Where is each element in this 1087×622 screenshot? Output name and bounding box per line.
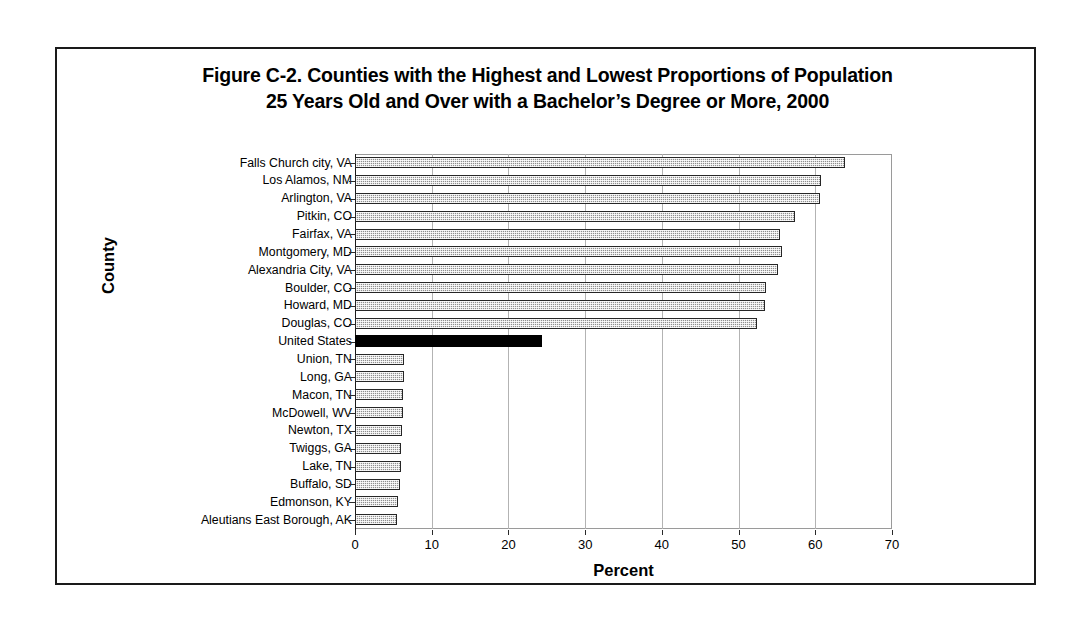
bar-highlight xyxy=(355,335,542,347)
y-axis-tick-label: Lake, TN xyxy=(302,459,352,473)
bar-row xyxy=(355,279,892,297)
y-axis-tick-label: Arlington, VA xyxy=(281,191,352,205)
x-axis-tick-label: 10 xyxy=(412,537,452,552)
y-axis-tick-label-row: Boulder, CO xyxy=(52,279,352,297)
y-axis-tick-labels: Falls Church city, VALos Alamos, NMArlin… xyxy=(52,154,352,529)
bar xyxy=(355,175,821,186)
bar xyxy=(355,193,820,204)
bar-row xyxy=(355,154,892,172)
bar-row xyxy=(355,350,892,368)
bar-row xyxy=(355,333,892,351)
bar-row xyxy=(355,475,892,493)
y-axis-tick-label: Buffalo, SD xyxy=(290,477,352,491)
bar-row xyxy=(355,243,892,261)
bar xyxy=(355,229,780,240)
bar-row xyxy=(355,493,892,511)
y-axis-tick-label-row: Douglas, CO xyxy=(52,315,352,333)
y-axis-tick-label-row: Montgomery, MD xyxy=(52,243,352,261)
y-axis-tick-label-row: Lake, TN xyxy=(52,458,352,476)
x-axis-tick-label: 40 xyxy=(642,537,682,552)
y-axis-tick-label-row: United States xyxy=(52,333,352,351)
x-axis-tick-label: 70 xyxy=(872,537,912,552)
bar xyxy=(355,211,795,222)
y-axis-tick-label: Douglas, CO xyxy=(282,316,352,330)
y-axis-tick-label-row: Fairfax, VA xyxy=(52,225,352,243)
y-axis-tick-label: Edmonson, KY xyxy=(270,495,352,509)
bar xyxy=(355,443,401,454)
bar-row xyxy=(355,422,892,440)
y-axis-tick-label-row: Los Alamos, NM xyxy=(52,172,352,190)
y-axis-tick-label: Boulder, CO xyxy=(285,281,352,295)
bar xyxy=(355,461,401,472)
x-axis-tick-mark xyxy=(739,530,740,535)
y-axis-tick-label: Montgomery, MD xyxy=(259,245,352,259)
y-axis-tick-label-row: Aleutians East Borough, AK xyxy=(52,511,352,529)
y-axis-tick-label-row: Union, TN xyxy=(52,350,352,368)
y-axis-tick-label: Aleutians East Borough, AK xyxy=(201,513,352,527)
bar-row xyxy=(355,172,892,190)
figure-frame: Figure C-2. Counties with the Highest an… xyxy=(55,47,1036,585)
y-axis-tick-label-row: Newton, TX xyxy=(52,422,352,440)
y-axis-tick-label-row: Long, GA xyxy=(52,368,352,386)
x-axis-title: Percent xyxy=(355,561,892,580)
x-axis-tick-mark xyxy=(892,530,893,535)
bar-chart: 010203040506070 Falls Church city, VALos… xyxy=(57,49,1038,587)
bar xyxy=(355,496,398,507)
y-axis-tick-label-row: McDowell, WV xyxy=(52,404,352,422)
y-axis-tick-label: Macon, TN xyxy=(292,388,352,402)
y-axis-tick-label-row: Arlington, VA xyxy=(52,190,352,208)
x-axis-tick-mark xyxy=(508,530,509,535)
bar xyxy=(355,157,845,168)
bar-row xyxy=(355,225,892,243)
bar xyxy=(355,371,404,382)
x-axis-tick-label: 20 xyxy=(488,537,528,552)
x-axis-tick-label: 50 xyxy=(719,537,759,552)
y-axis-tick-label: Long, GA xyxy=(300,370,352,384)
bar xyxy=(355,389,403,400)
bar-row xyxy=(355,511,892,529)
y-axis-tick-label: Fairfax, VA xyxy=(292,227,352,241)
y-axis-tick-label: Alexandria City, VA xyxy=(248,263,352,277)
y-axis-tick-label: United States xyxy=(278,334,352,348)
y-axis-title: County xyxy=(99,237,118,294)
bar-row xyxy=(355,386,892,404)
x-axis-tick-mark xyxy=(585,530,586,535)
bar-row xyxy=(355,208,892,226)
bar xyxy=(355,514,397,525)
y-axis-tick-label-row: Falls Church city, VA xyxy=(52,154,352,172)
bar xyxy=(355,246,782,257)
y-axis-tick-label: Los Alamos, NM xyxy=(262,173,352,187)
y-axis-tick-label-row: Twiggs, GA xyxy=(52,440,352,458)
x-axis-tick-mark xyxy=(432,530,433,535)
x-axis-tick-mark xyxy=(815,530,816,535)
bar xyxy=(355,407,403,418)
bar xyxy=(355,264,778,275)
x-axis-tick-label: 30 xyxy=(565,537,605,552)
y-axis-tick-label-row: Pitkin, CO xyxy=(52,208,352,226)
bar-row xyxy=(355,368,892,386)
y-axis-tick-label: Twiggs, GA xyxy=(289,441,352,455)
bar-row xyxy=(355,190,892,208)
bar xyxy=(355,425,402,436)
bar-row xyxy=(355,404,892,422)
bar xyxy=(355,282,766,293)
bar-row xyxy=(355,261,892,279)
y-axis-tick-label-row: Buffalo, SD xyxy=(52,475,352,493)
y-axis-tick-label: McDowell, WV xyxy=(272,406,352,420)
y-axis-tick-label-row: Howard, MD xyxy=(52,297,352,315)
bar-row xyxy=(355,315,892,333)
bar-row xyxy=(355,440,892,458)
bar-series xyxy=(355,154,892,529)
x-axis-tick-label: 0 xyxy=(335,537,375,552)
y-axis-tick-label: Union, TN xyxy=(297,352,352,366)
y-axis-tick-label: Pitkin, CO xyxy=(297,209,352,223)
bar xyxy=(355,479,400,490)
x-axis-tick-mark xyxy=(662,530,663,535)
bar-row xyxy=(355,458,892,476)
y-axis-tick-label: Newton, TX xyxy=(288,423,352,437)
y-axis-tick-label-row: Macon, TN xyxy=(52,386,352,404)
x-axis-tick-label: 60 xyxy=(795,537,835,552)
y-axis-tick-label: Falls Church city, VA xyxy=(240,156,352,170)
bar xyxy=(355,354,404,365)
bar xyxy=(355,318,757,329)
